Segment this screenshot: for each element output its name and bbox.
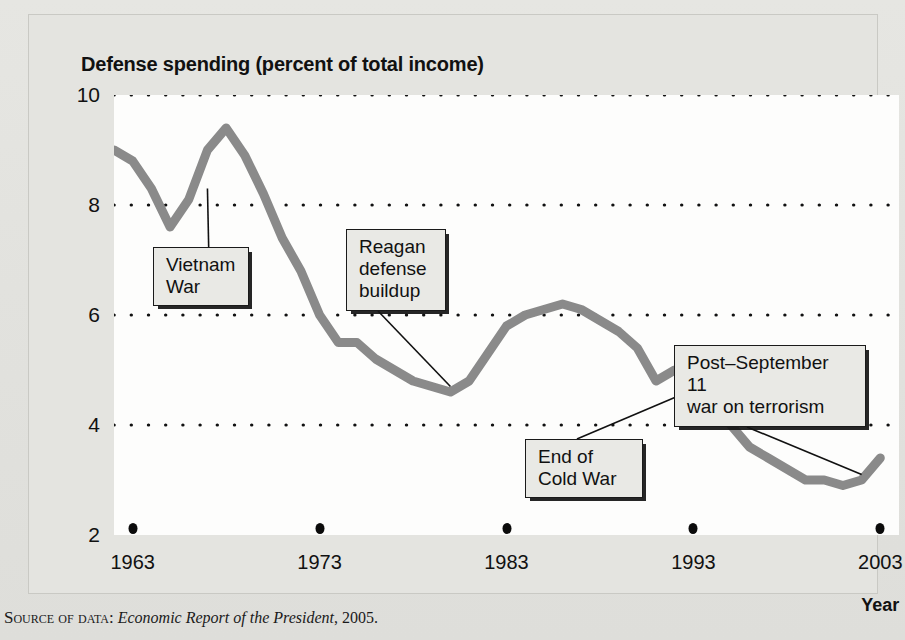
x-axis-tick-dot-1993	[689, 523, 698, 534]
source-work: Economic Report of the President	[118, 609, 334, 626]
annotation-post-sept-11: Post–September 11 war on terrorism	[674, 345, 866, 427]
x-axis-tick-dot-1983	[502, 523, 511, 534]
source-note: Source of data: Economic Report of the P…	[4, 608, 378, 628]
x-axis-title: Year	[861, 595, 899, 616]
y-axis-tick-10: 10	[56, 83, 100, 107]
chart-title: Defense spending (percent of total incom…	[81, 53, 484, 76]
y-axis-tick-6: 6	[56, 303, 100, 327]
annotation-end-cold-war: End of Cold War	[525, 439, 643, 498]
x-axis-tick-label-1963: 1963	[110, 551, 155, 574]
x-axis-tick-label-1973: 1973	[297, 551, 342, 574]
x-axis-tick-dot-1973	[315, 523, 324, 534]
chart-svg	[114, 95, 899, 535]
source-prefix: Source of data:	[4, 608, 114, 627]
annotation-vietnam-war: Vietnam War	[153, 247, 249, 306]
figure-panel: Defense spending (percent of total incom…	[28, 14, 878, 594]
x-axis-tick-dot-1963	[128, 523, 137, 534]
y-axis-tick-2: 2	[56, 523, 100, 547]
x-axis-tick-label-1983: 1983	[484, 551, 529, 574]
annotation-reagan-buildup: Reagan defense buildup	[346, 229, 446, 311]
source-year: , 2005.	[334, 609, 378, 626]
x-axis-tick-dot-2003	[876, 523, 885, 534]
x-axis-tick-label-1993: 1993	[671, 551, 716, 574]
x-axis-tick-label-2003: 2003	[858, 551, 903, 574]
y-axis-tick-4: 4	[56, 413, 100, 437]
data-line-defense-spending	[114, 128, 880, 486]
y-axis-tick-8: 8	[56, 193, 100, 217]
plot-area	[114, 95, 899, 535]
